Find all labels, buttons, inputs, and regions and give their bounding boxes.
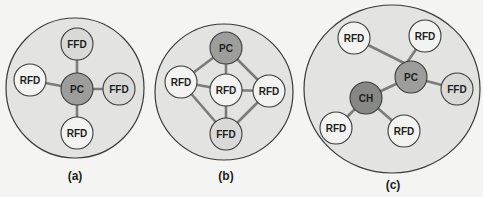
node-label: RFD (216, 85, 237, 96)
node-label: RFD (415, 31, 436, 42)
node-ffd: FFD (441, 73, 473, 105)
node-ch: CH (350, 82, 382, 114)
network-topology-figure: PCFFDFFDRFDRFD(a) PCRFDRFDRFDFFD(b) RFDR… (0, 0, 483, 197)
node-label: FFD (216, 129, 235, 140)
node-pc: PC (395, 61, 427, 93)
node-label: CH (359, 93, 373, 104)
node-rfd: RFD (388, 115, 420, 147)
node-rfd: RFD (320, 112, 352, 144)
node-rfd: RFD (210, 74, 242, 106)
panel-label: (b) (218, 169, 233, 183)
node-label: FFD (447, 84, 466, 95)
node-pc: PC (61, 73, 93, 105)
node-label: RFD (171, 77, 192, 88)
panel-star-topology: PCFFDFFDRFDRFD(a) (6, 18, 144, 183)
panel-cluster-tree-topology: RFDRFDPCFFDCHRFDRFD(c) (304, 5, 480, 192)
node-label: RFD (344, 33, 365, 44)
panel-label: (a) (68, 169, 83, 183)
panel-mesh-topology: PCRFDRFDRFDFFD(b) (155, 24, 293, 183)
node-label: RFD (20, 75, 41, 86)
node-label: FFD (109, 84, 128, 95)
node-label: RFD (259, 86, 280, 97)
node-rfd: RFD (338, 22, 370, 54)
node-ffd: FFD (103, 73, 135, 105)
node-label: RFD (394, 126, 415, 137)
node-rfd: RFD (61, 117, 93, 149)
node-ffd: FFD (210, 118, 242, 150)
node-rfd: RFD (253, 75, 285, 107)
panel-label: (c) (386, 178, 401, 192)
node-label: PC (70, 84, 84, 95)
node-rfd: RFD (409, 20, 441, 52)
node-rfd: RFD (165, 66, 197, 98)
node-label: RFD (326, 123, 347, 134)
node-label: RFD (67, 128, 88, 139)
node-rfd: RFD (14, 64, 46, 96)
node-pc: PC (210, 32, 242, 64)
node-label: PC (404, 72, 418, 83)
topology-diagram: PCFFDFFDRFDRFD(a) PCRFDRFDRFDFFD(b) RFDR… (0, 0, 483, 197)
node-label: PC (219, 43, 233, 54)
node-ffd: FFD (61, 28, 93, 60)
node-label: FFD (67, 39, 86, 50)
